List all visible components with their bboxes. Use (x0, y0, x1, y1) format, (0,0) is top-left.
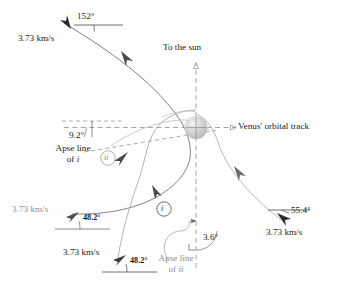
marker-ii-label: ii (104, 153, 109, 162)
venus-sphere-icon (185, 116, 208, 139)
outgoing-right-speed-label: 3.73 km/s (266, 227, 302, 238)
orbital-flyby-diagram: 3.73 km/s 152° To the sun Venus' orbital… (0, 0, 342, 289)
trajectory-i-path (118, 110, 196, 258)
to-the-sun-label: To the sun (163, 42, 201, 53)
apse-line-of-ii-line2: of ii (142, 264, 210, 275)
apse-line-of-ii-line1: Apse line (142, 253, 210, 264)
outgoing-ii-speed-label: 3.73 km/s (12, 204, 48, 215)
outgoing-i-speed-label: 3.73 km/s (63, 247, 99, 258)
apse-line-of-ii-subject: ii (178, 264, 183, 274)
apse-line-of-i-line2: of i (39, 154, 107, 165)
apse-line-of-i-line1: Apse line (39, 143, 107, 154)
outgoing-right-angle-label: 55.4° (291, 205, 311, 216)
angle-3-6-label: 3.6° (203, 232, 218, 243)
apse-line-of-ii-label: Apse line of ii (142, 253, 210, 274)
incoming-speed-label: 3.73 km/s (18, 33, 54, 44)
venus-orbital-track-label: Venus' orbital track (238, 121, 309, 132)
apse-line-of-i-subject: i (77, 154, 80, 164)
outgoing-ii-angle-label: 48.2° (83, 213, 101, 222)
incoming-angle-label: 152° (77, 11, 94, 22)
marker-i-label: i (161, 204, 163, 213)
apse-line-of-i-label: Apse line of i (39, 143, 107, 164)
angle-9-2-label: 9.2° (69, 130, 84, 141)
marker-i-circle (157, 202, 171, 216)
